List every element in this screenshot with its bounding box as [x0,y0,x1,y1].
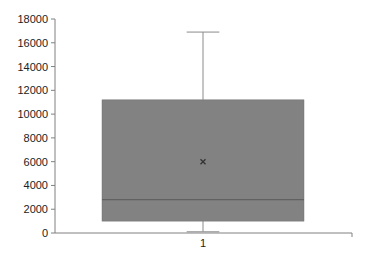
box [102,100,304,221]
y-tick-label: 8000 [24,132,48,144]
y-tick-label: 12000 [17,84,48,96]
y-tick-label: 6000 [24,156,48,168]
y-tick-label: 4000 [24,179,48,191]
y-tick-label: 2000 [24,203,48,215]
y-tick-label: 18000 [17,13,48,25]
y-tick-label: 16000 [17,37,48,49]
box-item [102,32,304,232]
y-axis: 0200040006000800010000120001400016000180… [17,13,55,239]
y-tick-label: 14000 [17,61,48,73]
box-plot-chart: 0200040006000800010000120001400016000180… [0,0,369,263]
x-tick-label: 1 [200,237,206,249]
y-tick-label: 10000 [17,108,48,120]
y-tick-label: 0 [42,227,48,239]
box-plot-series [102,32,304,232]
x-axis: 1 [55,233,352,249]
